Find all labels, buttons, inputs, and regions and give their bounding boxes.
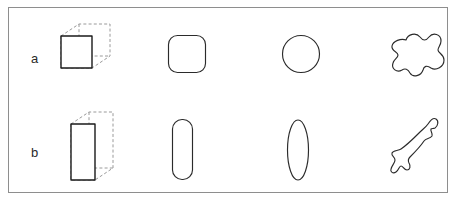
- shape-rectangular-prism: [63, 110, 125, 192]
- rounded-square-outline: [169, 36, 206, 73]
- shape-rounded-rectangle: [171, 118, 197, 182]
- cube-front-face: [61, 36, 92, 68]
- figure-frame: a b: [8, 7, 448, 193]
- circle-outline: [283, 36, 320, 73]
- rounded-rectangle-outline: [173, 120, 193, 180]
- ellipse-outline: [288, 120, 309, 180]
- prism-front-face: [71, 124, 95, 180]
- blob-outline: [392, 34, 444, 76]
- figure-panel: a b: [0, 0, 457, 207]
- row-label-a: a: [31, 52, 38, 65]
- shape-ellipse: [286, 118, 314, 182]
- elongated-blob-outline: [391, 118, 438, 172]
- shape-rounded-square: [167, 34, 209, 76]
- shape-irregular-blob: [384, 28, 450, 84]
- shape-circle: [281, 34, 323, 76]
- shape-elongated-irregular-blob: [387, 114, 445, 182]
- row-label-b: b: [31, 146, 38, 159]
- shape-cube: [53, 22, 117, 86]
